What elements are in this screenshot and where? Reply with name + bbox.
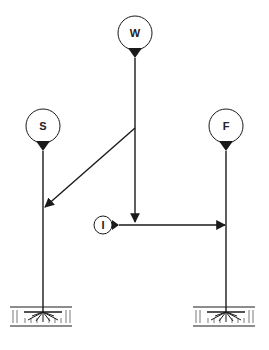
node-f-label: F [223,120,230,132]
node-i: I [94,216,119,234]
node-s-output-cone-icon [36,141,50,151]
edge-w-to-s [45,128,135,207]
node-w: W [118,16,152,58]
node-i-output-cone-icon [112,220,119,230]
diagram-canvas: W S F I [0,0,269,350]
node-i-label: I [101,219,104,231]
node-w-label: W [130,27,141,39]
node-s: S [26,109,60,151]
node-w-output-cone-icon [128,48,142,58]
ground-root-icon-s [10,305,72,326]
ground-root-icon-f [193,305,255,326]
node-s-label: S [39,120,46,132]
node-f-output-cone-icon [219,141,233,151]
node-f: F [209,109,243,151]
